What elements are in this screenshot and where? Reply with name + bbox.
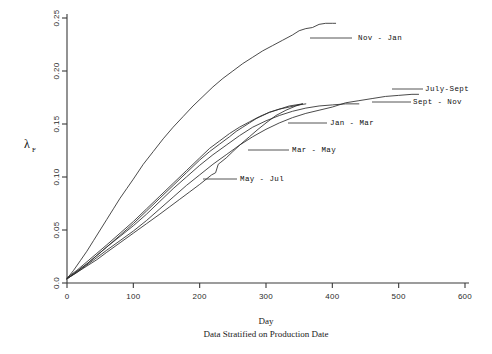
- series-label-mar-may: Mar - May: [292, 146, 336, 154]
- x-tick-label: 200: [193, 292, 207, 301]
- x-tick-label: 500: [392, 292, 406, 301]
- y-tick-label: 0.20: [52, 62, 61, 79]
- series-curve-sept-nov: [67, 104, 359, 279]
- series-label-july-sept: July-Sept: [425, 85, 469, 93]
- series-curve-jan-mar: [67, 104, 306, 278]
- chart-subtitle: Data Stratified on Production Date: [204, 329, 329, 339]
- x-tick-label: 400: [325, 292, 339, 301]
- x-tick-label: 100: [126, 292, 140, 301]
- y-tick-label: 0.05: [52, 221, 61, 238]
- series-label-sept-nov: Sept - Nov: [413, 98, 462, 106]
- series-label-jan-mar: Jan - Mar: [330, 119, 374, 127]
- x-tick-label: 300: [259, 292, 273, 301]
- chart-figure: 01002003004005006000.00.050.100.150.200.…: [0, 0, 492, 354]
- x-tick-label: 0: [65, 292, 70, 301]
- cumulative-hazard-plot: 01002003004005006000.00.050.100.150.200.…: [0, 0, 492, 354]
- y-tick-label: 0.10: [52, 168, 61, 185]
- x-axis-title: Day: [259, 316, 274, 326]
- y-tick-label: 0.15: [52, 115, 61, 132]
- series-label-nov-jan: Nov - Jan: [358, 34, 402, 42]
- x-tick-label: 600: [458, 292, 472, 301]
- y-axis-label-subscript: F: [32, 146, 36, 154]
- series-label-may-jul: May - Jul: [240, 175, 284, 183]
- y-tick-label: 0.25: [52, 9, 61, 26]
- y-tick-label: 0.0: [52, 277, 61, 289]
- series-curve-mar-may: [67, 104, 302, 279]
- series-curve-may-jul: [67, 104, 302, 279]
- y-axis-label: λ: [24, 137, 30, 151]
